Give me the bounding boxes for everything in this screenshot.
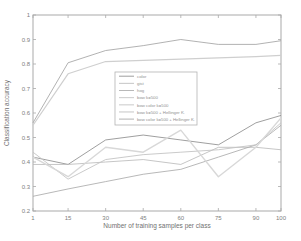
legend-label-color: color: [137, 74, 147, 79]
x-tick-label: 75: [215, 215, 222, 221]
y-tick-label: 0.9: [22, 37, 31, 43]
x-tick-label: 1: [31, 215, 35, 221]
line-chart: 11530456075901000.20.30.40.50.60.70.80.9…: [0, 0, 301, 241]
y-tick-label: 0.2: [22, 208, 31, 214]
y-tick-label: 0.3: [22, 184, 31, 190]
legend-label-bow-k-500-hellinger-k: bow k=500 + Hellinger K.: [137, 110, 185, 115]
y-axis-label: Classification accuracy: [3, 79, 11, 146]
y-tick-label: 0.7: [22, 86, 31, 92]
figure-canvas: 11530456075901000.20.30.40.50.60.70.80.9…: [0, 0, 301, 241]
y-tick-label: 0.8: [22, 61, 31, 67]
plot-layer: 11530456075901000.20.30.40.50.60.70.80.9…: [22, 12, 287, 221]
y-tick-label: 0.4: [22, 159, 31, 165]
legend-label-bow-color-k-500: bow color k=500: [137, 103, 169, 108]
x-tick-label: 90: [253, 215, 260, 221]
y-tick-label: 0.6: [22, 110, 31, 116]
y-tick-label: 0.5: [22, 135, 31, 141]
legend-label-bow-k-500: bow k=500: [137, 95, 159, 100]
x-tick-label: 45: [140, 215, 147, 221]
x-axis-label: Number of training samples per class: [103, 222, 211, 230]
legend-label-hog: hog: [137, 88, 145, 93]
legend-label-bow-color-k-500-hellinger-k: bow color k=500 + Hellinger K.: [137, 117, 195, 122]
x-tick-label: 100: [276, 215, 287, 221]
legend-label-gist: gist: [137, 81, 144, 86]
x-tick-label: 15: [65, 215, 72, 221]
y-tick-label: 1: [27, 12, 31, 18]
x-tick-label: 30: [102, 215, 109, 221]
x-tick-label: 60: [177, 215, 184, 221]
